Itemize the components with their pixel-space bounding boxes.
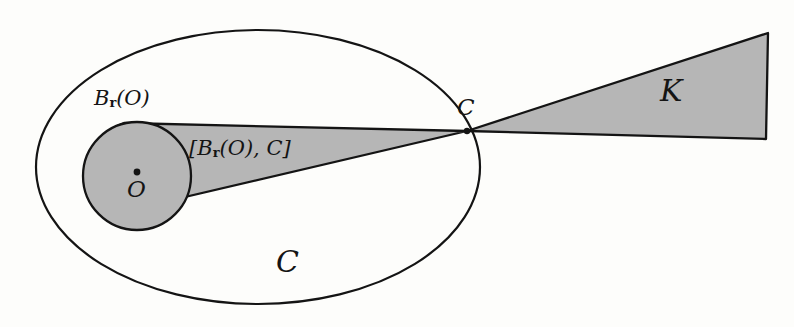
- label-ball-argument: (O): [116, 86, 150, 110]
- label-body-c: C: [276, 247, 299, 277]
- label-hull-subscript: r: [213, 145, 220, 160]
- label-origin-o: O: [127, 178, 146, 201]
- label-hull-main: B: [197, 136, 212, 160]
- label-cone-k: K: [660, 76, 682, 106]
- label-ball-br-o: Br(O): [94, 88, 150, 109]
- origin-dot: [134, 169, 141, 176]
- label-hull-separator: ,: [253, 136, 266, 160]
- cone-k-shape: [467, 33, 768, 139]
- label-hull-apex: C: [266, 136, 282, 160]
- label-hull-argument: (O): [220, 136, 254, 160]
- label-ball-main: B: [94, 86, 109, 110]
- label-apex-c: C: [457, 96, 475, 119]
- diagram-svg: [0, 0, 794, 327]
- figure-canvas-root: Br(O) [Br(O), C] O C K C: [0, 0, 794, 327]
- label-cone-hull: [Br(O), C]: [189, 138, 291, 159]
- label-hull-close: ]: [283, 136, 291, 160]
- apex-dot: [464, 128, 470, 134]
- label-hull-open: [: [189, 136, 197, 160]
